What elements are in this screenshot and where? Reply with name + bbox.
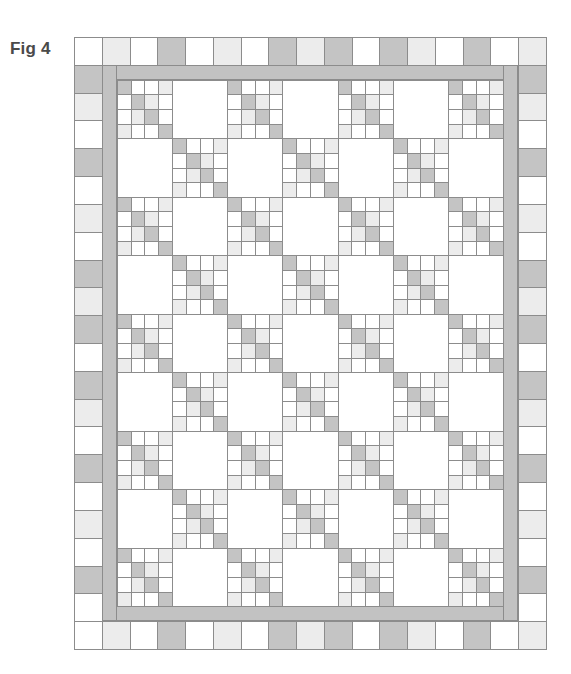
pieced-block-patch xyxy=(282,372,297,388)
pieced-block-patch xyxy=(200,533,215,549)
pieced-block-patch xyxy=(434,416,449,432)
pieced-block-patch xyxy=(448,211,463,227)
pieced-block-patch xyxy=(186,153,201,169)
border-square xyxy=(74,510,103,539)
pieced-block-patch xyxy=(213,138,228,154)
border-square xyxy=(518,510,547,539)
pieced-block-patch xyxy=(172,182,187,198)
pieced-block-patch xyxy=(338,343,353,359)
pieced-block-patch xyxy=(407,285,422,301)
border-square xyxy=(74,399,103,428)
pieced-block-patch xyxy=(365,431,380,447)
pieced-block-patch xyxy=(296,153,311,169)
pieced-block-patch xyxy=(131,592,146,608)
pieced-block-patch xyxy=(434,153,449,169)
border-square xyxy=(213,621,242,650)
pieced-block-patch xyxy=(269,460,284,476)
plain-block xyxy=(282,548,338,607)
pieced-block-patch xyxy=(476,80,491,96)
plain-block xyxy=(227,255,283,314)
pieced-block-patch xyxy=(434,387,449,403)
pieced-block-patch xyxy=(351,328,366,344)
pieced-block-patch xyxy=(379,80,394,96)
border-square xyxy=(379,621,408,650)
pieced-block-patch xyxy=(131,343,146,359)
pieced-block-patch xyxy=(172,168,187,184)
pieced-block-patch xyxy=(255,548,270,564)
pieced-block-patch xyxy=(365,94,380,110)
pieced-block-patch xyxy=(117,460,132,476)
pieced-block-patch xyxy=(324,285,339,301)
pieced-block-patch xyxy=(379,343,394,359)
pieced-block-patch xyxy=(351,80,366,96)
border-square xyxy=(296,621,325,650)
pieced-block-patch xyxy=(269,445,284,461)
pieced-block-patch xyxy=(227,548,242,564)
pieced-block-patch xyxy=(489,124,504,140)
pieced-block-patch xyxy=(462,109,477,125)
pieced-block-patch xyxy=(365,197,380,213)
border-square xyxy=(518,287,547,316)
pieced-block-patch xyxy=(448,358,463,374)
pieced-block-patch xyxy=(407,416,422,432)
pieced-block-patch xyxy=(227,94,242,110)
plain-block xyxy=(172,431,228,490)
border-square xyxy=(518,426,547,455)
pieced-block-patch xyxy=(393,285,408,301)
pieced-block-patch xyxy=(241,241,256,257)
pieced-block-patch xyxy=(282,401,297,417)
border-square xyxy=(157,37,186,66)
pieced-block-patch xyxy=(144,328,159,344)
pieced-block-patch xyxy=(462,548,477,564)
plain-block xyxy=(448,489,504,548)
pieced-block-patch xyxy=(407,270,422,286)
pieced-block-patch xyxy=(489,358,504,374)
pieced-block-patch xyxy=(241,314,256,330)
pieced-block-patch xyxy=(448,577,463,593)
border-square xyxy=(518,204,547,233)
pieced-block-patch xyxy=(310,489,325,505)
pieced-block-patch xyxy=(462,562,477,578)
border-square xyxy=(324,37,353,66)
pieced-block-patch xyxy=(351,592,366,608)
pieced-block-patch xyxy=(310,372,325,388)
pieced-block-patch xyxy=(420,285,435,301)
pieced-block-patch xyxy=(462,358,477,374)
pieced-block-patch xyxy=(434,533,449,549)
pieced-block-patch xyxy=(462,343,477,359)
pieced-block-patch xyxy=(131,226,146,242)
pieced-block-patch xyxy=(269,94,284,110)
pieced-block-patch xyxy=(434,489,449,505)
pieced-block-patch xyxy=(269,548,284,564)
pieced-block-patch xyxy=(310,182,325,198)
pieced-block-patch xyxy=(365,358,380,374)
plain-block xyxy=(448,138,504,197)
pieced-block-patch xyxy=(241,80,256,96)
pieced-block-patch xyxy=(379,592,394,608)
pieced-block-patch xyxy=(462,211,477,227)
pieced-block-patch xyxy=(324,153,339,169)
pieced-block-patch xyxy=(476,109,491,125)
pieced-block-patch xyxy=(407,138,422,154)
border-square xyxy=(74,176,103,205)
pieced-block-patch xyxy=(131,241,146,257)
pieced-block-patch xyxy=(117,80,132,96)
pieced-block-patch xyxy=(462,80,477,96)
pieced-block-patch xyxy=(296,533,311,549)
pieced-block-patch xyxy=(131,80,146,96)
pieced-block-patch xyxy=(338,562,353,578)
pieced-block-patch xyxy=(324,416,339,432)
pieced-block-patch xyxy=(379,577,394,593)
pieced-block-patch xyxy=(310,387,325,403)
pieced-block-patch xyxy=(489,548,504,564)
pieced-block-patch xyxy=(241,328,256,344)
pieced-block-patch xyxy=(338,109,353,125)
pieced-block-patch xyxy=(351,314,366,330)
pieced-block-patch xyxy=(351,431,366,447)
pieced-block-patch xyxy=(144,460,159,476)
border-square xyxy=(130,621,159,650)
pieced-block-patch xyxy=(379,460,394,476)
pieced-block-patch xyxy=(213,504,228,520)
pieced-block-patch xyxy=(227,431,242,447)
pieced-block-patch xyxy=(227,197,242,213)
